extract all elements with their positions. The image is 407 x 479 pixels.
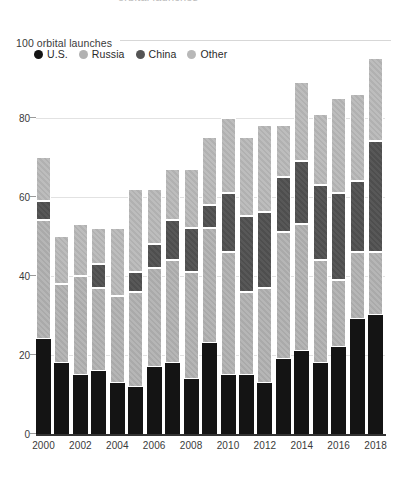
chart-page: orbital launches 100 orbital launches U.… [0, 0, 407, 479]
bar-segment-other[interactable] [202, 137, 217, 204]
bar-segment-russia[interactable] [331, 280, 346, 347]
bar-segment-us[interactable] [350, 319, 365, 434]
bar-segment-china[interactable] [313, 185, 328, 260]
bar-segment-russia[interactable] [165, 260, 180, 363]
bar-2011[interactable] [239, 137, 254, 434]
bar-segment-russia[interactable] [294, 224, 309, 351]
bar-segment-us[interactable] [147, 367, 162, 434]
x-tick-label-2002: 2002 [62, 440, 98, 451]
bar-segment-other[interactable] [313, 114, 328, 185]
bar-segment-russia[interactable] [184, 272, 199, 379]
bar-segment-us[interactable] [165, 363, 180, 434]
bar-2007[interactable] [165, 169, 180, 434]
bar-2010[interactable] [221, 118, 236, 434]
bar-segment-other[interactable] [73, 224, 88, 275]
bar-segment-us[interactable] [184, 379, 199, 434]
bar-segment-us[interactable] [239, 375, 254, 434]
bar-segment-us[interactable] [276, 359, 291, 434]
bar-segment-us[interactable] [91, 371, 106, 434]
bar-segment-china[interactable] [184, 228, 199, 272]
bar-2013[interactable] [276, 125, 291, 434]
bar-segment-russia[interactable] [276, 232, 291, 359]
bar-segment-other[interactable] [368, 58, 383, 141]
bar-2014[interactable] [294, 82, 309, 434]
bar-segment-china[interactable] [165, 220, 180, 260]
bar-2001[interactable] [54, 236, 69, 434]
bar-segment-russia[interactable] [54, 284, 69, 363]
bar-segment-other[interactable] [54, 236, 69, 283]
bar-2006[interactable] [147, 189, 162, 434]
bar-segment-russia[interactable] [73, 276, 88, 375]
bar-2000[interactable] [36, 157, 51, 434]
bar-segment-russia[interactable] [147, 268, 162, 367]
bar-segment-other[interactable] [165, 169, 180, 220]
bar-segment-other[interactable] [184, 169, 199, 228]
bar-segment-russia[interactable] [110, 296, 125, 383]
bar-segment-china[interactable] [257, 212, 272, 287]
bar-segment-china[interactable] [368, 141, 383, 252]
bar-segment-china[interactable] [147, 244, 162, 268]
x-tick-label-2016: 2016 [321, 440, 357, 451]
bar-segment-russia[interactable] [221, 252, 236, 375]
bar-segment-us[interactable] [368, 315, 383, 434]
bar-segment-us[interactable] [313, 363, 328, 434]
bars-group [0, 0, 407, 479]
bar-segment-us[interactable] [202, 343, 217, 434]
bar-segment-other[interactable] [36, 157, 51, 201]
bar-segment-russia[interactable] [128, 292, 143, 387]
bar-segment-other[interactable] [147, 189, 162, 244]
bar-segment-china[interactable] [350, 181, 365, 252]
bar-segment-russia[interactable] [368, 252, 383, 315]
bar-segment-china[interactable] [276, 177, 291, 232]
bar-segment-other[interactable] [221, 118, 236, 193]
bar-segment-russia[interactable] [257, 288, 272, 383]
bar-segment-china[interactable] [294, 161, 309, 224]
bar-2012[interactable] [257, 125, 272, 434]
bar-segment-russia[interactable] [91, 288, 106, 371]
bar-segment-us[interactable] [331, 347, 346, 434]
bar-2004[interactable] [110, 228, 125, 434]
bar-segment-russia[interactable] [313, 260, 328, 363]
bar-segment-china[interactable] [221, 193, 236, 252]
bar-segment-russia[interactable] [36, 220, 51, 339]
bar-segment-other[interactable] [350, 94, 365, 181]
bar-segment-us[interactable] [36, 339, 51, 434]
x-tick-label-2010: 2010 [210, 440, 246, 451]
bar-segment-other[interactable] [239, 137, 254, 216]
bar-segment-china[interactable] [128, 272, 143, 292]
bar-segment-us[interactable] [110, 383, 125, 434]
bar-segment-other[interactable] [276, 125, 291, 176]
bar-segment-us[interactable] [221, 375, 236, 434]
bar-segment-other[interactable] [257, 125, 272, 212]
bar-segment-other[interactable] [331, 98, 346, 193]
bar-segment-russia[interactable] [239, 292, 254, 375]
bar-segment-us[interactable] [54, 363, 69, 434]
bar-segment-china[interactable] [331, 193, 346, 280]
bar-2017[interactable] [350, 94, 365, 434]
x-tick-label-2012: 2012 [247, 440, 283, 451]
bar-2009[interactable] [202, 137, 217, 434]
bar-2008[interactable] [184, 169, 199, 434]
x-tick-label-2008: 2008 [173, 440, 209, 451]
bar-segment-other[interactable] [110, 228, 125, 295]
bar-segment-china[interactable] [202, 205, 217, 229]
bar-2002[interactable] [73, 224, 88, 434]
bar-segment-other[interactable] [294, 82, 309, 161]
bar-2018[interactable] [368, 58, 383, 434]
bar-2005[interactable] [128, 189, 143, 434]
bar-segment-russia[interactable] [350, 252, 365, 319]
bar-segment-us[interactable] [73, 375, 88, 434]
bar-2003[interactable] [91, 228, 106, 434]
bar-segment-us[interactable] [128, 387, 143, 434]
bar-segment-china[interactable] [239, 216, 254, 291]
bar-segment-russia[interactable] [202, 228, 217, 343]
bar-segment-us[interactable] [257, 383, 272, 434]
x-tick-label-2018: 2018 [358, 440, 394, 451]
bar-segment-other[interactable] [128, 189, 143, 272]
bar-segment-china[interactable] [91, 264, 106, 288]
bar-segment-us[interactable] [294, 351, 309, 434]
bar-2016[interactable] [331, 98, 346, 434]
bar-segment-other[interactable] [91, 228, 106, 264]
bar-segment-china[interactable] [36, 201, 51, 221]
bar-2015[interactable] [313, 114, 328, 434]
